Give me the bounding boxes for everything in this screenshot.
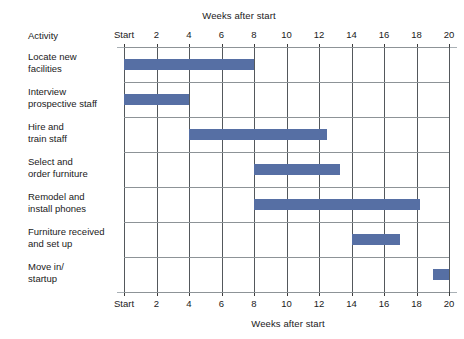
gantt-bar xyxy=(254,199,420,210)
grid-hline-1 xyxy=(124,82,449,83)
activity-column-header: Activity xyxy=(28,30,58,41)
grid-hline-6 xyxy=(124,257,449,258)
gantt-bar xyxy=(189,129,327,140)
x-tick-label-top-2: 2 xyxy=(154,29,159,40)
x-tick-label-bottom-18: 18 xyxy=(411,298,422,309)
x-tick-label-bottom-6: 6 xyxy=(219,298,224,309)
grid-hline-7 xyxy=(124,292,449,293)
activity-label-line: order furniture xyxy=(28,168,88,181)
grid-vline-week-4 xyxy=(189,47,190,292)
gantt-bar xyxy=(352,234,401,245)
activity-label-line: facilities xyxy=(28,63,77,76)
gantt-bar xyxy=(254,164,340,175)
x-tick-label-top-10: 10 xyxy=(281,29,292,40)
x-tick-label-bottom-4: 4 xyxy=(186,298,191,309)
grid-vline-week-14 xyxy=(352,47,353,292)
x-tick-label-top-14: 14 xyxy=(346,29,357,40)
x-tick-label-top-20: 20 xyxy=(444,29,455,40)
x-tick-label-bottom-2: 2 xyxy=(154,298,159,309)
activity-label-line: prospective staff xyxy=(28,98,97,111)
x-tick-label-bottom-16: 16 xyxy=(379,298,390,309)
grid-vline-week-18 xyxy=(417,47,418,292)
x-tick-label-top-12: 12 xyxy=(314,29,325,40)
activity-label-line: Hire and xyxy=(28,121,67,134)
grid-vline-week-2 xyxy=(157,47,158,292)
x-tick-label-top-8: 8 xyxy=(251,29,256,40)
activity-label: Interviewprospective staff xyxy=(28,86,97,111)
grid-vline-week-0 xyxy=(124,47,125,292)
activity-label-line: startup xyxy=(28,273,64,286)
plot-area xyxy=(124,47,449,292)
gantt-bar xyxy=(124,94,189,105)
grid-hline-5 xyxy=(124,222,449,223)
grid-hline-3 xyxy=(124,152,449,153)
activity-label-line: train staff xyxy=(28,133,67,146)
x-tick-label-bottom-12: 12 xyxy=(314,298,325,309)
activity-label-line: Furniture received xyxy=(28,226,105,239)
activity-label: Hire andtrain staff xyxy=(28,121,67,146)
gantt-chart: Weeks after start Activity Start24681012… xyxy=(0,0,464,339)
activity-label: Select andorder furniture xyxy=(28,156,88,181)
grid-vline-week-16 xyxy=(384,47,385,292)
x-tick-label-bottom-8: 8 xyxy=(251,298,256,309)
x-tick-label-bottom-start: Start xyxy=(114,298,134,309)
x-tick-label-top-18: 18 xyxy=(411,29,422,40)
activity-label: Locate newfacilities xyxy=(28,51,77,76)
grid-hline-4 xyxy=(124,187,449,188)
activity-label: Furniture receivedand set up xyxy=(28,226,105,251)
activity-label-line: Interview xyxy=(28,86,97,99)
activity-label: Remodel andinstall phones xyxy=(28,191,86,216)
grid-vline-week-20 xyxy=(449,47,450,292)
x-tick-label-bottom-14: 14 xyxy=(346,298,357,309)
activity-label-line: Locate new xyxy=(28,51,77,64)
x-tick-label-top-4: 4 xyxy=(186,29,191,40)
activity-label-line: and set up xyxy=(28,238,105,251)
grid-hline-0 xyxy=(124,47,449,48)
grid-hline-2 xyxy=(124,117,449,118)
gantt-bar xyxy=(124,59,254,70)
x-tick-label-top-16: 16 xyxy=(379,29,390,40)
grid-vline-week-6 xyxy=(222,47,223,292)
top-axis-title: Weeks after start xyxy=(202,10,275,21)
gantt-bar xyxy=(433,269,449,280)
x-tick-label-bottom-10: 10 xyxy=(281,298,292,309)
activity-label: Move in/startup xyxy=(28,261,64,286)
bottom-axis-title: Weeks after start xyxy=(251,318,324,329)
activity-label-line: install phones xyxy=(28,203,86,216)
activity-label-line: Select and xyxy=(28,156,88,169)
x-tick-label-top-6: 6 xyxy=(219,29,224,40)
activity-label-line: Remodel and xyxy=(28,191,86,204)
x-tick-label-top-start: Start xyxy=(114,29,134,40)
activity-label-line: Move in/ xyxy=(28,261,64,274)
x-tick-label-bottom-20: 20 xyxy=(444,298,455,309)
